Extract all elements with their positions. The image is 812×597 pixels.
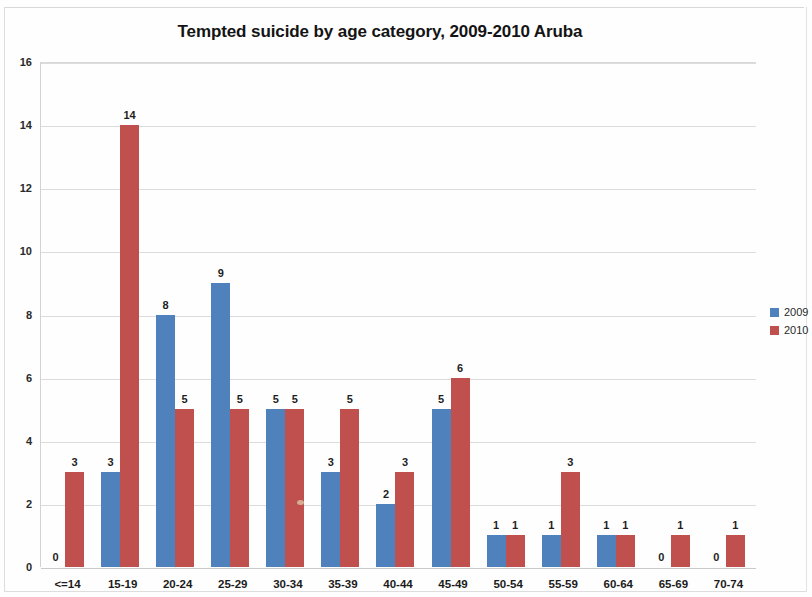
legend-swatch-icon [770,308,779,317]
bar-2010-<=14[interactable] [65,472,84,567]
bar-2010-70-74[interactable] [726,535,745,567]
bar-value-label: 14 [115,110,145,121]
bar-group: 01 [702,62,757,567]
bar-value-label: 3 [60,457,90,468]
bar-value-label: 3 [390,457,420,468]
bar-2009-55-59[interactable] [542,535,561,567]
bar-group: 85 [151,62,206,567]
bar-2010-60-64[interactable] [616,535,635,567]
legend-label: 2010 [784,324,808,336]
bar-group: 11 [592,62,647,567]
bar-2010-55-59[interactable] [561,472,580,567]
y-axis-tick-label: 8 [0,309,32,321]
chart-legend: 20092010 [770,303,812,339]
bar-2010-45-49[interactable] [451,378,470,567]
bar-value-label: 5 [280,394,310,405]
axis-baseline [41,568,756,569]
chart-container: Tempted suicide by age category, 2009-20… [0,0,812,597]
bar-group: 95 [206,62,261,567]
page-edge-bottom [4,591,806,592]
bar-value-label: 1 [500,520,530,531]
bar-value-label: 1 [665,520,695,531]
bar-value-label: 5 [335,394,365,405]
bar-value-label: 9 [206,268,236,279]
bar-2010-20-24[interactable] [175,409,194,567]
bar-2010-50-54[interactable] [506,535,525,567]
bar-2009-60-64[interactable] [597,535,616,567]
bar-value-label: 6 [445,363,475,374]
bar-2009-45-49[interactable] [432,409,451,567]
y-axis-tick-label: 16 [0,56,32,68]
bar-2009-25-29[interactable] [211,283,230,567]
bar-2009-30-34[interactable] [266,409,285,567]
bar-group: 03 [41,62,96,567]
y-axis-tick-label: 0 [0,561,32,573]
y-axis-tick-label: 4 [0,435,32,447]
bar-2009-40-44[interactable] [376,504,395,567]
plot-area: 033148595553523561113110101 [40,62,756,567]
bar-group: 55 [261,62,316,567]
bar-2009-35-39[interactable] [321,472,340,567]
bar-group: 01 [647,62,702,567]
bar-value-label: 5 [170,394,200,405]
bar-2009-15-19[interactable] [101,472,120,567]
y-axis-tick-label: 12 [0,182,32,194]
bar-2009-20-24[interactable] [156,315,175,568]
bar-group: 35 [316,62,371,567]
bar-2010-65-69[interactable] [671,535,690,567]
bar-group: 56 [427,62,482,567]
bar-2010-25-29[interactable] [230,409,249,567]
legend-swatch-icon [770,326,779,335]
y-axis-tick-label: 6 [0,372,32,384]
bar-value-label: 5 [225,394,255,405]
y-axis-tick-label: 10 [0,245,32,257]
bar-2010-30-34[interactable] [285,409,304,567]
y-axis-tick-label: 2 [0,498,32,510]
bar-2010-40-44[interactable] [395,472,414,567]
x-axis-tick-label: 70-74 [693,578,763,590]
bar-group: 23 [371,62,426,567]
legend-label: 2009 [784,306,808,318]
bar-value-label: 1 [720,520,750,531]
bar-group: 314 [96,62,151,567]
legend-item-2009[interactable]: 2009 [770,303,812,321]
bar-2009-50-54[interactable] [487,535,506,567]
bar-2010-15-19[interactable] [120,125,139,567]
chart-title: Tempted suicide by age category, 2009-20… [0,22,760,42]
bar-group: 11 [482,62,537,567]
y-axis-tick-label: 14 [0,119,32,131]
bar-value-label: 8 [151,300,181,311]
bar-value-label: 3 [555,457,585,468]
scan-smudge [297,500,304,505]
bar-group: 13 [537,62,592,567]
legend-item-2010[interactable]: 2010 [770,321,812,339]
bar-2010-35-39[interactable] [340,409,359,567]
page-edge-top [4,7,804,8]
bar-value-label: 1 [610,520,640,531]
page-edge-right [806,7,807,592]
